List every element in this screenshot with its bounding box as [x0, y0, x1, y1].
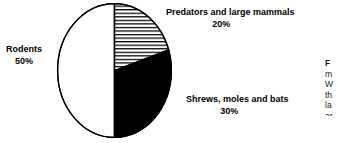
slice-label-rodents-name: Rodents: [6, 44, 42, 54]
slice-label-shrews-percent: 30%: [186, 106, 289, 118]
pie-chart: [56, 2, 173, 139]
side-caption-line-2: m: [325, 69, 343, 80]
side-caption-line-6: ar: [325, 111, 343, 116]
slice-label-predators: Predators and large mammals 20%: [166, 7, 295, 30]
side-caption-line-4: th: [325, 90, 343, 101]
slice-label-shrews: Shrews, moles and bats 30%: [186, 94, 289, 117]
slice-label-predators-name: Predators and large mammals: [166, 7, 295, 17]
side-caption-line-5: la: [325, 100, 343, 111]
side-caption-truncated: F m W th la ar: [325, 58, 343, 116]
pie-chart-figure: Rodents 50% Predators and large mammals …: [0, 0, 343, 143]
side-caption-line-1: F: [325, 58, 343, 69]
pie-chart-svg: [56, 2, 173, 139]
slice-label-shrews-name: Shrews, moles and bats: [186, 94, 289, 104]
slice-label-rodents: Rodents 50%: [6, 44, 42, 67]
pie-slice-rodents: [58, 4, 115, 138]
slice-label-predators-percent: 20%: [166, 19, 295, 31]
side-caption-line-3: W: [325, 79, 343, 90]
slice-label-rodents-percent: 50%: [6, 56, 42, 68]
